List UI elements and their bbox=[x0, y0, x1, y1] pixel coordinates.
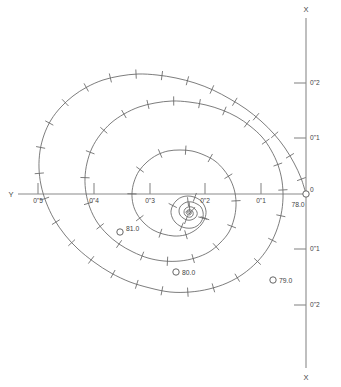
epoch-marker-79: 79.0 bbox=[270, 277, 293, 284]
tick-label-x-minus-0.1: 0"1 bbox=[310, 245, 320, 252]
orbit-tick-mark bbox=[244, 120, 249, 127]
orbit-tick-mark bbox=[225, 174, 232, 178]
tick-label-y-0.1: 0"1 bbox=[256, 197, 266, 204]
epoch-circle-78 bbox=[303, 191, 309, 197]
axis-label-x-top: X bbox=[303, 5, 308, 14]
axis-label-y-left: Y bbox=[8, 190, 13, 199]
epoch-circle-81 bbox=[117, 229, 123, 235]
tick-label-y-0.2: 0"2 bbox=[200, 197, 210, 204]
tick-label-x-plus-0.1: 0"1 bbox=[310, 134, 320, 141]
orbit-tick-mark bbox=[89, 257, 94, 264]
orbit-tick-mark bbox=[122, 110, 126, 117]
orbit-tick-mark bbox=[188, 198, 189, 206]
orbit-tick-mark bbox=[208, 154, 212, 161]
orbit-tick-mark bbox=[185, 146, 186, 154]
orbit-tick-mark bbox=[159, 150, 162, 158]
orbit-tick-mark bbox=[262, 139, 269, 144]
epoch-circle-80 bbox=[173, 269, 179, 275]
epoch-marker-81: 81.0 bbox=[117, 225, 140, 235]
orbit-tick-mark bbox=[253, 113, 258, 119]
orbit-tick-mark bbox=[188, 288, 189, 296]
tick-label-y-0.5: 0"5 bbox=[33, 197, 43, 204]
tick-label-y-0.3: 0"3 bbox=[145, 197, 155, 204]
axis-group bbox=[18, 18, 306, 368]
orbit-tick-mark bbox=[189, 203, 190, 211]
orbit-tick-mark bbox=[269, 238, 277, 242]
epoch-label-79: 79.0 bbox=[279, 277, 292, 284]
orbit-tick-marks bbox=[35, 70, 305, 296]
orbit-tick-mark bbox=[46, 121, 53, 125]
epoch-marker-80: 80.0 bbox=[173, 269, 196, 276]
epoch-circle-79 bbox=[270, 277, 276, 283]
tick-label-x-plus-0.2: 0"2 bbox=[310, 79, 320, 86]
orbit-tick-mark bbox=[210, 86, 213, 94]
orbit-tick-mark bbox=[161, 71, 162, 79]
orbit-tick-mark bbox=[136, 216, 143, 221]
tick-label-x-minus-0.2: 0"2 bbox=[310, 301, 320, 308]
epoch-label-81: 81.0 bbox=[126, 225, 139, 232]
orbit-tick-mark bbox=[52, 220, 59, 224]
tick-label-x-origin: 0 bbox=[310, 186, 314, 193]
orbit-tick-mark bbox=[84, 84, 88, 91]
orbit-spiral-path bbox=[39, 74, 306, 292]
orbit-tick-mark bbox=[235, 274, 239, 281]
orbit-tick-mark bbox=[137, 167, 144, 172]
orbit-tick-mark bbox=[286, 154, 293, 158]
orbit-tick-mark bbox=[35, 173, 43, 174]
epoch-label-80: 80.0 bbox=[182, 269, 195, 276]
horizontal-axis-ticks bbox=[38, 183, 261, 194]
apparent-orbit-figure: X X Y 0"2 0"1 0 0"1 0"2 0"5 0"4 0"3 0"2 … bbox=[0, 0, 341, 387]
axis-label-x-bottom: X bbox=[303, 373, 308, 382]
epoch-label-78: 78.0 bbox=[291, 201, 304, 208]
orbit-tick-mark bbox=[111, 270, 115, 277]
orbit-tick-mark bbox=[117, 241, 122, 248]
orbit-tick-mark bbox=[169, 204, 176, 208]
orbit-tick-mark bbox=[97, 224, 104, 229]
orbit-tick-mark bbox=[233, 98, 237, 105]
